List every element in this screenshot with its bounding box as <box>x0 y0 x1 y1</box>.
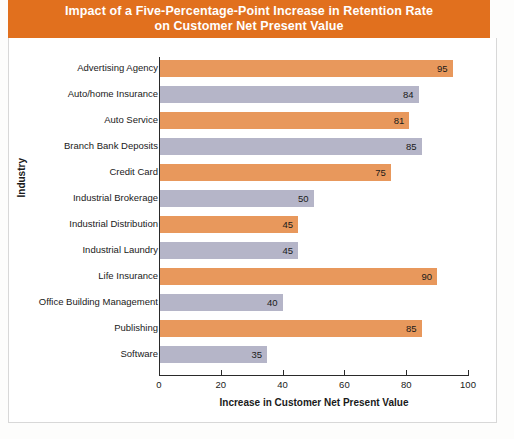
bar-value-label: 45 <box>282 245 298 256</box>
bar-row: Branch Bank Deposits85 <box>0 135 514 161</box>
bar: 45 <box>159 216 298 233</box>
bar-row: Credit Card75 <box>0 161 514 187</box>
chart-page: Impact of a Five-Percentage-Point Increa… <box>0 0 514 439</box>
bar: 85 <box>159 138 422 155</box>
x-tick-label: 40 <box>277 379 288 390</box>
bar-value-label: 45 <box>282 219 298 230</box>
category-label: Auto Service <box>104 114 158 126</box>
x-axis-label: Increase in Customer Net Present Value <box>159 397 469 408</box>
bar-value-label: 50 <box>298 193 314 204</box>
bar-row: Life Insurance90 <box>0 265 514 291</box>
category-label: Software <box>121 348 159 360</box>
bar-row: Advertising Agency95 <box>0 57 514 83</box>
bar-value-label: 81 <box>394 115 410 126</box>
bar-row: Auto/home Insurance84 <box>0 83 514 109</box>
bar-value-label: 85 <box>406 141 422 152</box>
chart-title-banner: Impact of a Five-Percentage-Point Increa… <box>8 0 490 38</box>
bar-value-label: 35 <box>252 349 268 360</box>
x-tick-label: 100 <box>460 379 476 390</box>
category-label: Life Insurance <box>98 270 158 282</box>
bar-row: Software35 <box>0 343 514 369</box>
chart-title-line-2: on Customer Net Present Value <box>154 19 343 33</box>
bar: 95 <box>159 60 453 77</box>
x-tick <box>221 370 222 375</box>
category-label: Office Building Management <box>39 296 158 308</box>
category-label: Auto/home Insurance <box>68 88 158 100</box>
category-label: Industrial Distribution <box>69 218 158 230</box>
category-label: Publishing <box>114 322 158 334</box>
bar-value-label: 85 <box>406 323 422 334</box>
bar: 84 <box>159 86 419 103</box>
x-tick <box>406 370 407 375</box>
bar-value-label: 40 <box>267 297 283 308</box>
bar: 81 <box>159 112 409 129</box>
category-label: Industrial Laundry <box>82 244 158 256</box>
x-tick-label: 0 <box>156 379 161 390</box>
category-label: Advertising Agency <box>77 62 158 74</box>
category-label: Credit Card <box>109 166 158 178</box>
chart-title-line-1: Impact of a Five-Percentage-Point Increa… <box>65 4 433 18</box>
bar-row: Auto Service81 <box>0 109 514 135</box>
category-label: Industrial Brokerage <box>73 192 158 204</box>
category-label: Branch Bank Deposits <box>64 140 158 152</box>
bar-row: Industrial Distribution45 <box>0 213 514 239</box>
bar: 50 <box>159 190 314 207</box>
bar-rows: Advertising Agency95Auto/home Insurance8… <box>0 57 514 369</box>
bar-value-label: 75 <box>375 167 391 178</box>
x-tick <box>159 370 160 375</box>
bar-value-label: 84 <box>403 89 419 100</box>
bar-row: Industrial Laundry45 <box>0 239 514 265</box>
bar: 40 <box>159 294 283 311</box>
bar-value-label: 90 <box>422 271 438 282</box>
x-tick-label: 60 <box>339 379 350 390</box>
bar-value-label: 95 <box>437 63 453 74</box>
x-tick-label: 20 <box>216 379 227 390</box>
x-axis-line <box>159 375 469 376</box>
x-tick <box>344 370 345 375</box>
bar: 85 <box>159 320 422 337</box>
y-axis-line <box>159 57 160 375</box>
bar: 75 <box>159 164 391 181</box>
chart-title: Impact of a Five-Percentage-Point Increa… <box>45 4 453 34</box>
bar-row: Publishing85 <box>0 317 514 343</box>
bar-row: Office Building Management40 <box>0 291 514 317</box>
x-tick <box>468 370 469 375</box>
bar: 45 <box>159 242 298 259</box>
bar: 35 <box>159 346 267 363</box>
x-tick-label: 80 <box>401 379 412 390</box>
x-tick <box>283 370 284 375</box>
bar-row: Industrial Brokerage50 <box>0 187 514 213</box>
bar: 90 <box>159 268 437 285</box>
